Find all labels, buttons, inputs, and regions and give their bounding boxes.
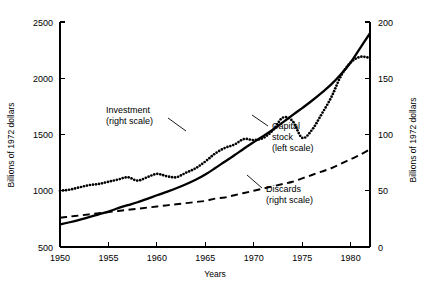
investment-dot [124, 176, 127, 179]
investment-dot [314, 124, 317, 127]
investment-dot [139, 179, 142, 182]
x-axis-tick-labels: 1950195519601965197019751980 [50, 253, 361, 263]
investment-dot [226, 146, 229, 149]
investment-annotation-line2: (right scale) [106, 116, 153, 126]
investment-dot [110, 180, 113, 183]
investment-dot [223, 147, 226, 150]
x-tick-label: 1975 [292, 253, 312, 263]
investment-dot [330, 95, 333, 98]
investment-dot [232, 144, 235, 147]
left-tick-label: 1000 [33, 186, 53, 196]
discards-leader-line [247, 175, 262, 188]
investment-dot [308, 132, 311, 135]
investment-dot [338, 79, 341, 82]
investment-annotation: Investment (right scale) [106, 105, 153, 126]
investment-dot [315, 122, 318, 125]
investment-dot [218, 150, 221, 153]
x-tick-label: 1980 [341, 253, 361, 263]
investment-dot [201, 162, 204, 165]
investment-dot [215, 151, 218, 154]
investment-dot [89, 184, 92, 187]
investment-dot [83, 185, 86, 188]
discards-annotation-line1: Discards [266, 184, 302, 194]
investment-dot [198, 164, 201, 167]
investment-dot [77, 186, 80, 189]
x-tick-label: 1960 [147, 253, 167, 263]
investment-dot [162, 174, 165, 177]
data-series-layer [59, 33, 370, 224]
left-axis-tick-labels: 5001000150020002500 [33, 18, 53, 253]
investment-dot [182, 173, 185, 176]
left-tick-label: 2000 [33, 74, 53, 84]
capital-stock-annotation: Capital stock (left scale) [272, 121, 314, 153]
investment-dot [254, 139, 257, 142]
investment-dot [177, 175, 180, 178]
discards-dashed-line [60, 149, 370, 218]
investment-dot [159, 173, 162, 176]
investment-dot [92, 183, 95, 186]
investment-dot [366, 56, 369, 59]
investment-dot [190, 169, 193, 172]
investment-annotation-line1: Investment [106, 105, 151, 115]
investment-dot [185, 171, 188, 174]
investment-dot [237, 141, 240, 144]
investment-dot [101, 182, 104, 185]
x-axis-ticks [108, 242, 350, 247]
investment-dot [221, 148, 224, 151]
investment-dot [304, 136, 307, 139]
capital-stock-line [60, 33, 370, 224]
investment-dot [118, 178, 121, 181]
investment-dot [133, 178, 136, 181]
investment-dot [150, 174, 153, 177]
investment-dot [334, 87, 337, 90]
investment-dot [282, 116, 285, 119]
investment-dot [332, 93, 335, 96]
investment-dot [266, 134, 269, 137]
investment-dot [317, 119, 320, 122]
investment-dot [115, 178, 118, 181]
investment-dot [235, 142, 238, 145]
left-axis-title: Billions of 1972 dollars [6, 102, 16, 187]
investment-dot [193, 167, 196, 170]
investment-dot [312, 127, 315, 130]
investment-dot [335, 84, 338, 87]
investment-dot [206, 159, 209, 162]
investment-dot [153, 173, 156, 176]
investment-dot [174, 176, 177, 179]
investment-dot [324, 106, 327, 109]
investment-dot [333, 90, 336, 93]
right-tick-label: 150 [378, 74, 393, 84]
investment-dot [71, 188, 74, 191]
investment-dot [74, 187, 77, 190]
investment-dot [288, 117, 291, 120]
investment-dot [142, 178, 145, 181]
investment-dot [86, 184, 89, 187]
investment-dot [354, 57, 357, 60]
investment-dot [98, 183, 101, 186]
investment-dot [130, 177, 133, 180]
investment-dot [352, 59, 355, 62]
left-axis-ticks [60, 22, 65, 247]
investment-dot [59, 189, 62, 192]
right-tick-label: 100 [378, 130, 393, 140]
x-tick-label: 1965 [195, 253, 215, 263]
investment-dot [203, 161, 206, 164]
investment-dot [263, 136, 266, 139]
investment-dot [62, 189, 65, 192]
investment-dot [213, 153, 216, 156]
investment-dot [336, 81, 339, 84]
left-tick-label: 2500 [33, 18, 53, 28]
capital-stock-investment-discards-chart: 5001000150020002500 050100150200 1950195… [0, 0, 432, 293]
investment-dot [340, 73, 343, 76]
right-axis-ticks [365, 22, 370, 247]
investment-dot [107, 181, 110, 184]
investment-dot [321, 111, 324, 114]
investment-dot [104, 181, 107, 184]
capital-stock-leader-line [252, 115, 268, 126]
investment-dot [196, 166, 199, 169]
investment-dot [323, 109, 326, 112]
investment-dot [344, 68, 347, 71]
investment-dot [310, 129, 313, 132]
capital-annotation-line2: stock [272, 132, 294, 142]
right-tick-label: 50 [378, 186, 388, 196]
